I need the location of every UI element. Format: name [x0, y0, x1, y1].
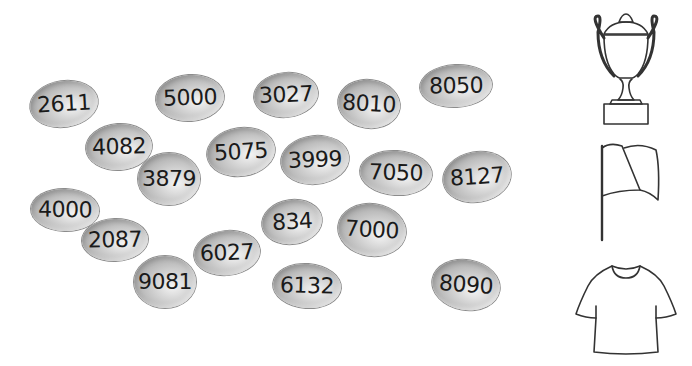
- tshirt-icon[interactable]: [560, 252, 692, 358]
- number-pebble[interactable]: 9081: [134, 256, 196, 308]
- number-pebble[interactable]: 8127: [439, 146, 515, 207]
- number-pebble[interactable]: 7050: [359, 149, 434, 198]
- pebble-number: 3027: [259, 83, 314, 107]
- pebble-number: 4000: [38, 199, 92, 222]
- number-pebble[interactable]: 6132: [272, 262, 343, 311]
- pebble-field: 2611500030278010805040825075387939997050…: [0, 0, 540, 366]
- pebble-number: 4082: [92, 135, 147, 158]
- number-pebble[interactable]: 3999: [279, 133, 352, 188]
- pebble-number: 5075: [213, 140, 268, 165]
- flag-graphic: [560, 138, 692, 246]
- trophy-icon[interactable]: [560, 4, 692, 130]
- pebble-number: 5000: [163, 86, 218, 109]
- pebble-number: 8010: [341, 92, 396, 117]
- pebble-number: 7000: [344, 218, 399, 243]
- pebble-number: 8050: [429, 74, 483, 97]
- number-pebble[interactable]: 3879: [138, 153, 200, 205]
- pebble-number: 8090: [438, 272, 493, 298]
- flag-icon[interactable]: [560, 138, 692, 246]
- number-pebble[interactable]: 5000: [154, 73, 225, 124]
- number-pebble[interactable]: 3027: [252, 70, 320, 120]
- number-pebble[interactable]: 6027: [192, 228, 262, 279]
- pebble-number: 9081: [138, 271, 192, 293]
- number-pebble[interactable]: 4000: [30, 188, 99, 232]
- number-pebble[interactable]: 8010: [335, 76, 403, 132]
- pebble-number: 3879: [142, 168, 196, 190]
- trophy-graphic: [560, 4, 692, 130]
- pebble-number: 2611: [36, 92, 91, 117]
- tshirt-graphic: [560, 252, 692, 358]
- number-pebble[interactable]: 8090: [428, 254, 504, 315]
- pebble-number: 834: [271, 210, 313, 234]
- number-pebble[interactable]: 834: [259, 196, 325, 248]
- pebble-number: 8127: [449, 164, 504, 190]
- pebble-number: 3999: [288, 148, 343, 172]
- pebble-number: 6132: [280, 274, 335, 297]
- number-pebble[interactable]: 7000: [335, 200, 410, 261]
- pebble-number: 2087: [88, 229, 142, 252]
- number-pebble[interactable]: 5075: [204, 124, 278, 181]
- number-pebble[interactable]: 8050: [419, 63, 493, 109]
- pebble-number: 6027: [200, 241, 255, 265]
- icon-column: [560, 0, 692, 366]
- pebble-number: 7050: [369, 161, 424, 184]
- number-pebble[interactable]: 2611: [27, 76, 101, 131]
- number-pebble[interactable]: 2087: [81, 218, 148, 262]
